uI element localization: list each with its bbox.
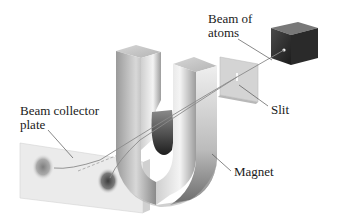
label-magnet: Magnet bbox=[234, 165, 274, 179]
deflected-spot-lower bbox=[97, 168, 119, 194]
magnet bbox=[116, 45, 217, 207]
stern-gerlach-diagram: Beam of atoms Slit Magnet Beam collector… bbox=[0, 0, 341, 221]
deflected-spot-upper bbox=[32, 154, 54, 180]
label-beam-collector-plate: Beam collector plate bbox=[20, 104, 99, 132]
label-beam-of-atoms: Beam of atoms bbox=[208, 12, 252, 40]
label-slit: Slit bbox=[271, 103, 289, 117]
oven bbox=[271, 22, 318, 65]
slit-plate bbox=[218, 57, 258, 104]
